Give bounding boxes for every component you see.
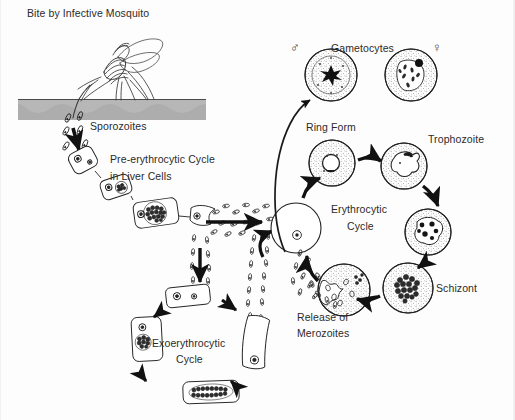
diagram-canvas — [0, 0, 515, 420]
label-exoerythrocytic-cycle-line2: Cycle — [176, 353, 203, 366]
male-symbol-icon: ♂ — [290, 41, 300, 54]
label-ring-form: Ring Form — [306, 121, 356, 134]
merozoite-reentry-arrow — [260, 231, 272, 257]
page-title: Bite by Infective Mosquito — [27, 7, 149, 20]
skin-surface — [18, 100, 206, 121]
label-release-of-merozoites-line2: Merozoites — [297, 327, 349, 340]
gametocyte-male-cell — [305, 49, 357, 101]
release-of-merozoites-cell — [318, 264, 370, 316]
label-erythrocytic-cycle-line2: Cycle — [347, 220, 374, 233]
label-gametocytes: Gametocytes — [331, 42, 394, 55]
label-pre-erythrocytic-cycle-line2: in Liver Cells — [110, 170, 172, 183]
trophozoite-cell — [381, 143, 427, 189]
label-trophozoite: Trophozoite — [428, 133, 484, 146]
malaria-life-cycle-figure: Bite by Infective Mosquito Sporozoites P… — [0, 0, 515, 420]
merozoite-into-liver-arrow — [222, 300, 236, 310]
schizont-developing-cell — [405, 209, 451, 255]
sporozoite-direction-arrow — [73, 128, 79, 150]
label-sporozoites: Sporozoites — [90, 120, 147, 133]
label-erythrocytic-cycle: Erythrocytic — [331, 203, 387, 216]
merozoite-stream-to-blood — [206, 203, 274, 237]
female-symbol-icon: ♀ — [432, 41, 442, 54]
label-exoerythrocytic-cycle: Exoerythrocytic — [152, 337, 225, 350]
label-schizont: Schizont — [436, 282, 477, 295]
label-pre-erythrocytic-cycle: Pre-erythrocytic Cycle — [110, 153, 215, 166]
gametocyte-female-cell — [385, 49, 437, 101]
schizont-cell — [383, 263, 433, 313]
label-release-of-merozoites: Release of — [297, 311, 348, 324]
merozoite-stream-down-left — [190, 234, 211, 284]
